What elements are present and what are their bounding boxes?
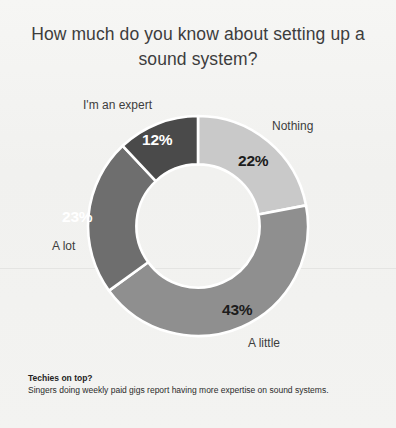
slice-label-im-an-expert: I'm an expert [83, 98, 152, 112]
donut-svg [84, 112, 312, 340]
chart-title: How much do you know about setting up a … [20, 22, 376, 72]
donut-chart [84, 112, 312, 340]
slice-value-a-lot: 23% [62, 208, 92, 226]
chart-figure: How much do you know about setting up a … [0, 0, 396, 428]
footnote-body: Singers doing weekly paid gigs report ha… [28, 385, 368, 396]
footnote-title: Techies on top? [28, 373, 368, 384]
footnote: Techies on top? Singers doing weekly pai… [28, 373, 368, 396]
slice-label-a-little: A little [248, 336, 280, 350]
donut-slices [88, 116, 308, 336]
slice-value-im-an-expert: 12% [142, 131, 172, 149]
slice-label-a-lot: A lot [52, 239, 75, 253]
slice-value-a-little: 43% [222, 301, 252, 319]
donut-slice-a-little [109, 205, 308, 336]
slice-label-nothing: Nothing [272, 119, 313, 133]
slice-value-nothing: 22% [238, 152, 268, 170]
